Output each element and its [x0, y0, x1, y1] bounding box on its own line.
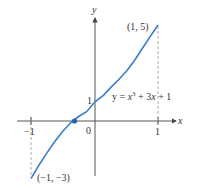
point-label-top: (1, 5) — [127, 21, 149, 33]
x-axis-label: x — [177, 115, 183, 126]
root-point-marker — [72, 118, 77, 123]
equation-label: y = x3 + 3x + 1 — [112, 90, 171, 102]
y-tick-label-1: 1 — [87, 95, 92, 106]
point-label-bottom: (−1, −3) — [37, 172, 70, 184]
tick-label-neg1: −1 — [24, 126, 35, 137]
y-axis-label: y — [91, 4, 97, 15]
function-graph: y x −1 0 1 1 (1, 5) (−1, −3) y = x3 + 3x… — [0, 0, 197, 189]
tick-label-1: 1 — [155, 126, 160, 137]
tick-label-0: 0 — [86, 125, 91, 136]
